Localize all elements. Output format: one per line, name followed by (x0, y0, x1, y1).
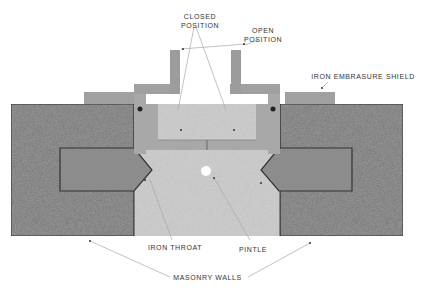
label-closed-line2: Position (170, 21, 230, 30)
pintle (201, 166, 211, 176)
throat-insert-right (261, 148, 352, 191)
throat-insert-left (60, 148, 152, 191)
label-closed-line1: Closed (170, 12, 230, 21)
hinge-pin-right (271, 107, 276, 112)
label-iron-embrasure-shield: Iron Embrasure Shield (308, 72, 418, 81)
closed-shutter (146, 104, 268, 150)
label-open-line1: Open (233, 26, 293, 35)
label-iron-throat: Iron Throat (145, 243, 205, 252)
label-masonry-walls: Masonry Walls (165, 273, 250, 282)
label-open-line2: Position (233, 35, 293, 44)
label-pintle: Pintle (233, 245, 273, 254)
hinge-pin-left (138, 107, 143, 112)
label-closed-position: Closed Position (170, 12, 230, 30)
label-open-position: Open Position (233, 26, 293, 44)
embrasure-diagram (0, 0, 421, 297)
